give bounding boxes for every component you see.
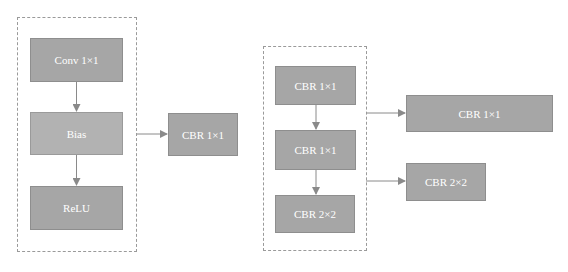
relu-node: ReLU <box>30 186 123 230</box>
bias-node: Bias <box>30 112 123 155</box>
bias-label: Bias <box>67 128 87 140</box>
cbr-1x1-output-node: CBR 1×1 <box>406 95 553 132</box>
cbr-1x1-b-label: CBR 1×1 <box>295 144 337 156</box>
cbr-1x1-middle-node: CBR 1×1 <box>168 113 238 156</box>
conv-1x1-node: Conv 1×1 <box>30 38 123 82</box>
cbr-2x2-c-node: CBR 2×2 <box>275 195 355 233</box>
cbr-2x2-output-label: CBR 2×2 <box>425 176 467 188</box>
cbr-1x1-a-label: CBR 1×1 <box>295 80 337 92</box>
cbr-1x1-output-label: CBR 1×1 <box>459 108 501 120</box>
cbr-1x1-b-node: CBR 1×1 <box>275 130 356 170</box>
cbr-2x2-c-label: CBR 2×2 <box>294 208 336 220</box>
cbr-1x1-middle-label: CBR 1×1 <box>182 129 224 141</box>
cbr-1x1-a-node: CBR 1×1 <box>275 66 356 105</box>
conv-1x1-label: Conv 1×1 <box>55 54 99 66</box>
cbr-2x2-output-node: CBR 2×2 <box>406 163 486 201</box>
relu-label: ReLU <box>63 202 90 214</box>
